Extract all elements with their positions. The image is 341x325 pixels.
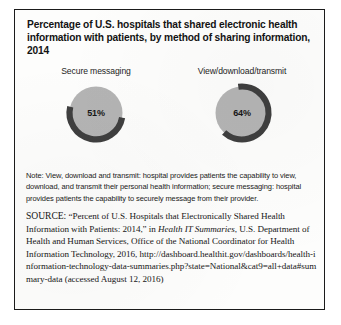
figure-title: Percentage of U.S. hospitals that shared… xyxy=(27,18,312,58)
figure-source: SOURCE: “Percent of U.S. Hospitals that … xyxy=(26,210,318,286)
source-publication: Health IT Summaries xyxy=(158,224,235,234)
chart-view-download-transmit: View/download/transmit 64% xyxy=(167,66,317,145)
figure-panel: Percentage of U.S. hospitals that shared… xyxy=(14,9,325,310)
chart-label-view-download-transmit: View/download/transmit xyxy=(167,66,317,77)
chart-secure-messaging: Secure messaging 51% xyxy=(21,66,171,145)
gauge-secure-messaging: 51% xyxy=(64,81,128,145)
charts-row: Secure messaging 51% View/download/trans… xyxy=(15,66,324,164)
chart-label-secure-messaging: Secure messaging xyxy=(21,66,171,77)
gauge-view-download-transmit: 64% xyxy=(210,81,274,145)
gauge-value-secure-messaging: 51% xyxy=(64,81,128,145)
source-label: SOURCE: xyxy=(26,210,66,221)
source-in-word: in xyxy=(149,224,156,234)
source-accessed: (accessed August 12, 2016) xyxy=(65,274,164,284)
figure-note: Note: View, download and transmit: hospi… xyxy=(26,170,316,204)
gauge-value-view-download-transmit: 64% xyxy=(210,81,274,145)
